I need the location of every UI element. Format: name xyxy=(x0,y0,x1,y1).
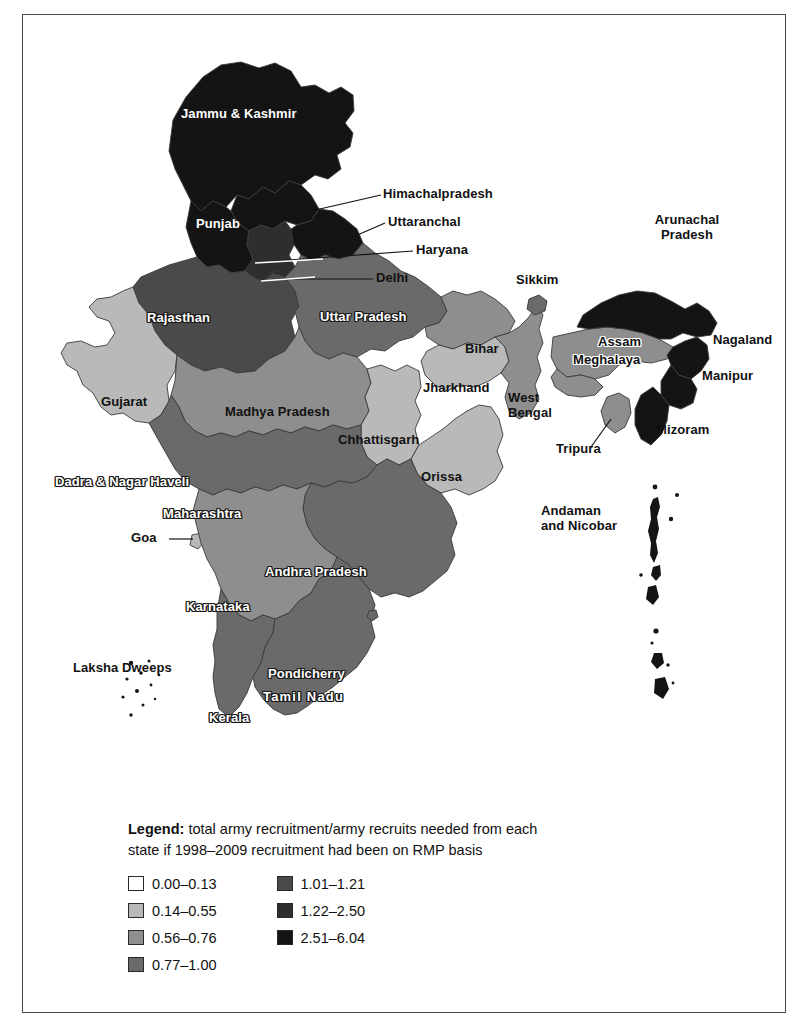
legend-label: 2.51–6.04 xyxy=(301,930,366,946)
legend-item: 1.22–2.50 xyxy=(277,900,366,921)
map-label-rajasthan: Rajasthan xyxy=(147,311,210,326)
map-label-west-bengal: West Bengal xyxy=(508,391,552,420)
map-label-himachalpradesh: Himachalpradesh xyxy=(383,187,493,202)
region-chhattisgarh xyxy=(361,365,421,465)
map-label-jharkhand: Jharkhand xyxy=(423,381,490,396)
map-label-andhra-pradesh: Andhra Pradesh xyxy=(265,565,367,580)
legend-swatch xyxy=(277,930,293,945)
map-label-meghalaya: Meghalaya xyxy=(573,353,640,368)
legend-label: 1.22–2.50 xyxy=(301,903,366,919)
map-label-chhattisgarh: Chhattisgarh xyxy=(338,433,419,448)
legend-item: 0.56–0.76 xyxy=(128,927,217,948)
legend-item: 0.14–0.55 xyxy=(128,900,217,921)
map-label-karnataka: Karnataka xyxy=(186,600,250,615)
legend-label: 0.14–0.55 xyxy=(152,903,217,919)
map-label-bihar: Bihar xyxy=(465,342,499,357)
map-label-goa: Goa xyxy=(131,531,157,546)
map-label-dadra-nagar-haveli: Dadra & Nagar Haveli xyxy=(55,475,189,490)
map-label-nagaland: Nagaland xyxy=(713,333,772,348)
legend-item: 0.00–0.13 xyxy=(128,873,217,894)
legend-swatch xyxy=(277,903,293,918)
legend-column-right: 1.01–1.21 1.22–2.50 2.51–6.04 xyxy=(277,873,366,975)
region-sikkim xyxy=(527,295,547,315)
legend-swatch xyxy=(128,930,144,945)
map-label-uttar-pradesh: Uttar Pradesh xyxy=(320,310,407,325)
map-label-orissa: Orissa xyxy=(421,470,462,485)
legend-keys: 0.00–0.13 0.14–0.55 0.56–0.76 0.77–1.00 xyxy=(128,873,688,975)
legend-label: 0.77–1.00 xyxy=(152,957,217,973)
map-label-arunachal-pradesh: Arunachal Pradesh xyxy=(627,213,747,242)
region-uttar-pradesh xyxy=(285,243,447,359)
figure-frame: Jammu & Kashmir Punjab Himachalpradesh U… xyxy=(22,14,786,1013)
map-label-laksha-dweeps: Laksha Dweeps xyxy=(73,661,172,676)
region-andaman-nicobar xyxy=(639,485,679,699)
map-label-andaman-nicobar: Andaman and Nicobar xyxy=(541,504,617,533)
legend-label: 0.56–0.76 xyxy=(152,930,217,946)
region-haryana xyxy=(245,221,295,281)
legend-swatch xyxy=(128,903,144,918)
legend-title: Legend: xyxy=(128,821,184,837)
map-label-delhi: Delhi xyxy=(376,271,408,286)
map-label-tripura: Tripura xyxy=(556,442,601,457)
legend-swatch xyxy=(277,876,293,891)
legend-item: 0.77–1.00 xyxy=(128,954,217,975)
map-label-maharashtra: Maharashtra xyxy=(163,507,241,522)
map-label-tamil-nadu: Tamil Nadu xyxy=(263,690,344,705)
map-label-gujarat: Gujarat xyxy=(101,395,147,410)
legend: Legend: total army recruitment/army recr… xyxy=(128,819,688,975)
map-label-madhya-pradesh: Madhya Pradesh xyxy=(225,405,330,420)
legend-swatch xyxy=(128,876,144,891)
map-label-mizoram: Mizoram xyxy=(656,423,709,438)
map-label-haryana: Haryana xyxy=(416,243,468,258)
legend-label: 1.01–1.21 xyxy=(301,876,366,892)
map-label-sikkim: Sikkim xyxy=(516,273,559,288)
india-choropleth-map xyxy=(23,15,785,815)
legend-caption: Legend: total army recruitment/army recr… xyxy=(128,819,558,860)
legend-caption-text: total army recruitment/army recruits nee… xyxy=(128,821,537,858)
legend-column-left: 0.00–0.13 0.14–0.55 0.56–0.76 0.77–1.00 xyxy=(128,873,217,975)
map-label-assam: Assam xyxy=(598,335,641,350)
legend-label: 0.00–0.13 xyxy=(152,876,217,892)
legend-swatch xyxy=(128,957,144,972)
map-label-punjab: Punjab xyxy=(196,217,240,232)
map-label-pondicherry: Pondicherry xyxy=(268,667,345,682)
map-label-uttaranchal: Uttaranchal xyxy=(388,215,461,230)
legend-item: 1.01–1.21 xyxy=(277,873,366,894)
map-label-manipur: Manipur xyxy=(702,369,753,384)
region-tripura xyxy=(601,393,631,433)
map-stage: Jammu & Kashmir Punjab Himachalpradesh U… xyxy=(23,15,785,1012)
map-label-kerala: Kerala xyxy=(209,711,249,726)
legend-item: 2.51–6.04 xyxy=(277,927,366,948)
map-label-jammu-kashmir: Jammu & Kashmir xyxy=(181,107,297,122)
